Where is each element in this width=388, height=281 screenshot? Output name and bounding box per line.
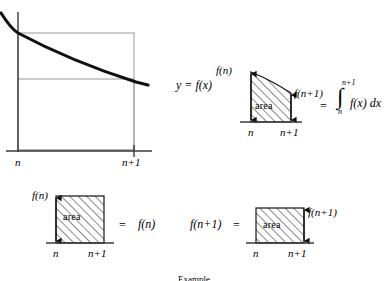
upper-guide-rectangle [18,33,134,150]
panel-lower-lhs: f(n+1) [190,218,221,230]
integrand: f(x) dx [350,97,381,109]
panel-integral-equals: = [320,100,327,112]
panel-integral-label-fn1: f(n+1) [294,88,323,99]
panel-upper-result: f(n) [138,218,155,230]
panel-upper-tick-n-plus-1: n+1 [88,248,106,259]
panel-curve-graphic [1,12,152,157]
figure-canvas [0,0,388,281]
curve-label: y = f(x) [176,79,212,91]
integral-shaded-region [251,72,291,122]
panel-lower-tick-n: n [253,248,259,259]
figure-caption: Example [0,274,388,281]
function-curve [1,13,148,85]
integral-test-figure: y = f(x) n n+1 f(n) f(n+1) area n n+1 = … [0,0,388,281]
panel-integral-tick-n: n [248,127,254,138]
panel-upper-label-fn: f(n) [32,190,48,201]
panel-lower-tick-n-plus-1: n+1 [288,248,306,259]
panel-curve-tick-n: n [15,157,21,168]
integral-sign: ∫ [337,85,343,108]
panel-integral-graphic [240,72,302,122]
panel-upper-tick-n: n [53,248,59,259]
panel-integral-area-word: area [255,101,273,111]
panel-integral-tick-n-plus-1: n+1 [280,127,298,138]
panel-lower-label-fn1: f(n+1) [308,207,337,218]
panel-lower-area-word: area [263,220,281,230]
panel-upper-area-word: area [63,212,81,222]
panel-curve-tick-n-plus-1: n+1 [122,157,140,168]
panel-lower-equals: = [233,219,240,231]
lower-guide-rectangle [18,79,134,150]
integral-upper-limit: n+1 [342,79,355,87]
panel-upper-equals: = [119,219,126,231]
integral-lower-limit: n [338,108,342,116]
panel-integral-label-fn: f(n) [216,65,232,76]
